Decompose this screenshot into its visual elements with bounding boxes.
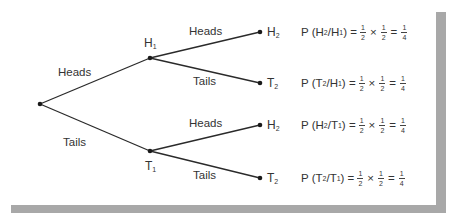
- equation-h2-given-h1: P (H2/ H1) = 12 × 12 = 14: [301, 24, 410, 41]
- fraction-1: 12: [359, 75, 365, 92]
- leaf-h2-top: [258, 30, 263, 35]
- equation-t2-given-t1: P (T2/ T1) = 12 × 12 = 14: [301, 170, 408, 187]
- fraction-2: 12: [378, 170, 384, 187]
- fraction-result: 14: [401, 24, 407, 41]
- node-label-t1: T1: [145, 160, 156, 173]
- leaf-t2-bottom: [258, 176, 263, 181]
- branch-label-tails-h1: Tails: [193, 76, 216, 88]
- branch-label-heads-t1: Heads: [189, 118, 222, 130]
- branch-root-t1: [40, 104, 150, 151]
- fraction-2: 12: [379, 117, 385, 134]
- leaf-label-h2-bottom: H2: [267, 119, 280, 132]
- equation-h2-given-t1: P (H2/ T1) = 12 × 12 = 14: [301, 117, 409, 134]
- leaf-label-h2-top: H2: [267, 26, 280, 39]
- probability-tree-diagram: Heads Tails Heads Tails Heads Tails H1 T…: [0, 0, 452, 223]
- fraction-result: 14: [400, 75, 406, 92]
- leaf-label-t2-bottom: T2: [267, 172, 278, 185]
- root-node: [38, 102, 43, 107]
- fraction-result: 14: [400, 117, 406, 134]
- leaf-h2-bottom: [258, 123, 263, 128]
- branch-label-heads-1: Heads: [58, 67, 91, 79]
- fraction-1: 12: [360, 24, 366, 41]
- node-t1: [148, 149, 153, 154]
- node-h1: [148, 56, 153, 61]
- branch-label-tails-1: Tails: [63, 137, 86, 149]
- fraction-1: 12: [357, 170, 363, 187]
- leaf-label-t2-top: T2: [267, 77, 278, 90]
- fraction-2: 12: [379, 75, 385, 92]
- equation-t2-given-h1: P (T2/ H1) = 12 × 12 = 14: [301, 75, 409, 92]
- branch-label-heads-h1: Heads: [189, 26, 222, 38]
- fraction-1: 12: [359, 117, 365, 134]
- fraction-2: 12: [381, 24, 387, 41]
- branch-root-h1: [40, 58, 150, 104]
- fraction-result: 14: [399, 170, 405, 187]
- leaf-t2-top: [258, 81, 263, 86]
- node-label-h1: H1: [144, 37, 157, 50]
- branch-label-tails-t1: Tails: [193, 170, 216, 182]
